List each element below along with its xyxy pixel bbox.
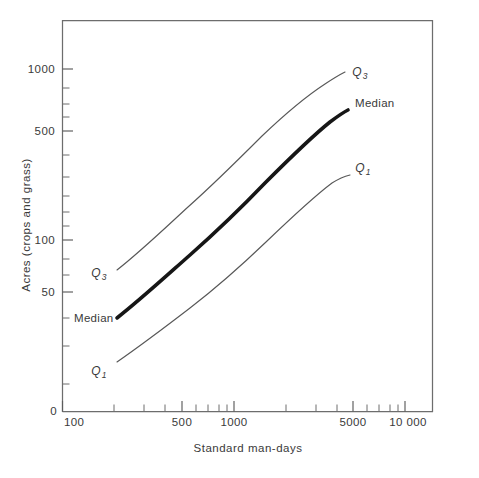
- label-q3-left: Q 3: [91, 266, 106, 282]
- label-q1-right-letter: Q: [355, 161, 364, 175]
- plot-frame: [63, 20, 434, 412]
- label-q3-right-letter: Q: [352, 65, 361, 79]
- label-q3-right: Q 3: [352, 65, 367, 81]
- x-axis-tick-labels: 100 500 1000 5000 10 000: [64, 416, 427, 428]
- label-q3-left-subscript: 3: [102, 272, 107, 282]
- label-q1-right-subscript: 1: [366, 167, 371, 177]
- x-axis-ticks: [63, 401, 406, 412]
- label-q3-left-letter: Q: [91, 266, 100, 280]
- curve-q3: [117, 72, 345, 270]
- y-tick-label-100: 100: [35, 234, 55, 246]
- label-q1-left-letter: Q: [91, 364, 100, 378]
- x-axis-title: Standard man-days: [194, 442, 303, 454]
- curve-labels-right: Q 3 Median Q 1: [352, 65, 394, 177]
- label-median-right: Median: [355, 97, 395, 109]
- x-tick-label-100: 100: [64, 416, 84, 428]
- chart-canvas: 1000 500 100 50 0 Acres (crops and grass…: [0, 0, 479, 478]
- y-tick-label-500: 500: [35, 125, 55, 137]
- x-tick-label-5000: 5000: [339, 416, 366, 428]
- data-curves: [117, 72, 350, 362]
- label-q1-right: Q 1: [355, 161, 370, 177]
- x-tick-label-10000: 10 000: [389, 416, 427, 428]
- curve-median: [117, 110, 348, 318]
- y-axis-title: Acres (crops and grass): [20, 158, 32, 292]
- label-q1-left-subscript: 1: [102, 370, 107, 380]
- y-axis-title-group: Acres (crops and grass): [20, 158, 32, 292]
- y-tick-label-1000: 1000: [28, 63, 55, 75]
- curve-labels-left: Q 3 Median Q 1: [74, 266, 114, 380]
- curve-q1: [117, 175, 350, 362]
- label-median-left: Median: [74, 312, 114, 324]
- x-tick-label-1000: 1000: [220, 416, 247, 428]
- figure-container: 1000 500 100 50 0 Acres (crops and grass…: [0, 0, 479, 478]
- label-q3-right-subscript: 3: [363, 71, 368, 81]
- y-axis-tick-labels: 1000 500 100 50 0: [28, 63, 57, 417]
- x-tick-label-500: 500: [172, 416, 192, 428]
- label-q1-left: Q 1: [91, 364, 106, 380]
- y-tick-label-0: 0: [50, 405, 57, 417]
- y-tick-label-50: 50: [41, 286, 55, 298]
- y-axis-ticks: [63, 69, 74, 384]
